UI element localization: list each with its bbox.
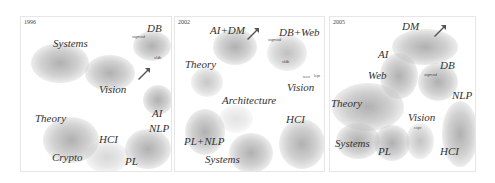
cluster-label-pl-nlp: PL+NLP	[184, 135, 224, 147]
cluster-label-pl: PL	[125, 155, 138, 167]
cluster-label-dm: DM	[402, 20, 419, 32]
cluster-label-systems: Systems	[53, 37, 88, 49]
cluster-label-hci: HCI	[286, 113, 305, 125]
cluster-label-vision: Vision	[287, 81, 314, 93]
cluster-label-web: Web	[368, 69, 387, 81]
cluster-label-db: DB	[147, 22, 162, 34]
cluster-label-vision: Vision	[408, 111, 435, 123]
panel-2005: 2005 DM AI Web DB sigmod Theory NLP Visi…	[329, 16, 476, 172]
panel-1996: 1996 Systems Vision DB sigmod vldb AI Th…	[20, 16, 172, 172]
cluster-blob-systems	[31, 43, 89, 83]
cluster-label-ai-dm: AI+DM	[210, 24, 245, 36]
venue-label: cvpr	[414, 125, 422, 130]
year-label: 2002	[178, 19, 190, 25]
cluster-label-ai: AI	[152, 107, 162, 119]
cluster-label-theory: Theory	[331, 97, 362, 109]
venue-label: iccv	[303, 74, 310, 79]
year-label: 2005	[333, 19, 345, 25]
cluster-label-theory: Theory	[35, 112, 66, 124]
year-label: 1996	[24, 19, 36, 25]
cluster-label-hci: HCI	[99, 133, 118, 145]
venue-label: sigmod	[268, 37, 281, 42]
panel-2002: 2002 AI+DM DB+Web sigmod vldb Theory icc…	[174, 16, 325, 172]
cluster-blob-theory	[191, 67, 223, 97]
cluster-label-nlp: NLP	[452, 89, 472, 101]
cluster-label-crypto: Crypto	[52, 151, 83, 163]
cluster-label-hci: HCI	[440, 145, 459, 157]
cluster-blob-nlp-hci	[442, 101, 476, 167]
arrow-icon	[433, 24, 447, 38]
cluster-label-theory: Theory	[185, 58, 216, 70]
cluster-label-pl: PL	[378, 145, 391, 157]
venue-label: lcpr	[314, 73, 320, 78]
cluster-label-nlp: NLP	[149, 122, 169, 134]
cluster-label-db: DB	[440, 59, 455, 71]
cluster-blob-hci	[279, 119, 325, 169]
cluster-label-architecture: Architecture	[222, 94, 276, 106]
cluster-label-vision: Vision	[99, 83, 126, 95]
cluster-label-systems: Systems	[205, 153, 240, 165]
venue-label: vldb	[154, 55, 161, 60]
venue-label: sigmod	[132, 34, 145, 39]
cluster-blob-pl-nlp	[185, 109, 225, 155]
arrow-icon	[246, 27, 260, 41]
cluster-label-ai: AI	[378, 48, 388, 60]
venue-label: vldb	[282, 59, 289, 64]
cluster-blob-hci	[85, 141, 129, 172]
cluster-label-db-web: DB+Web	[279, 26, 320, 38]
cluster-label-systems: Systems	[335, 137, 370, 149]
arrow-icon	[137, 67, 151, 81]
venue-label: sigmod	[424, 72, 437, 77]
